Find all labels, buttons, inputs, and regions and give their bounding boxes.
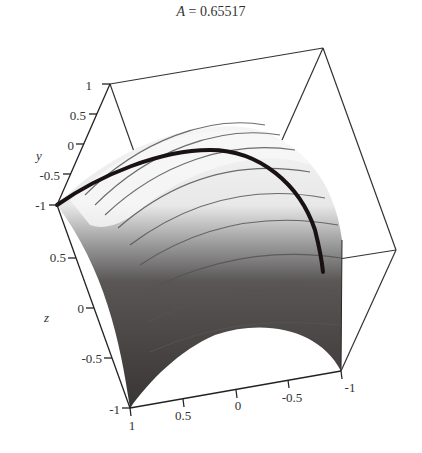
z-tick: -0.5 (81, 351, 102, 366)
y-tick: 1 (86, 78, 93, 93)
y-axis-label: y (34, 148, 42, 163)
z-tick: 0 (78, 301, 85, 316)
z-tick: 0.5 (50, 250, 66, 265)
y-tick: 0 (68, 138, 75, 153)
y-tick: -1 (35, 198, 46, 213)
x-tick: 1 (129, 418, 136, 433)
z-axis-label: z (43, 310, 49, 325)
y-tick: -0.5 (39, 168, 60, 183)
z-tick: -1 (109, 402, 120, 417)
x-tick: 0 (235, 398, 242, 413)
plot-3d-canvas[interactable]: 1 0.5 0 -0.5 -1 y 0.5 0 -0.5 -1 z 1 0.5 … (0, 0, 422, 453)
x-tick: -1 (345, 380, 356, 395)
y-tick: 0.5 (70, 108, 86, 123)
x-tick: -0.5 (282, 390, 303, 405)
x-tick: 0.5 (175, 408, 191, 423)
